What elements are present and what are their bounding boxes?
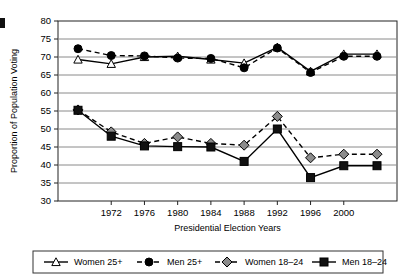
page-edge-mark xyxy=(0,18,5,28)
data-point-marker xyxy=(340,162,348,170)
data-point-marker xyxy=(207,54,215,62)
data-point-marker xyxy=(373,162,381,170)
xtick-label: 1996 xyxy=(300,207,321,218)
ytick-label: 30 xyxy=(40,195,51,206)
x-axis-title: Presidential Election Years xyxy=(174,223,281,233)
data-point-marker xyxy=(340,52,348,60)
data-point-marker xyxy=(140,52,148,60)
legend-marker-sample xyxy=(320,258,328,266)
xtick-label: 1980 xyxy=(167,207,188,218)
data-point-marker xyxy=(240,64,248,72)
y-axis-title: Proportion of Population Voting xyxy=(9,49,19,173)
legend-label: Women 25+ xyxy=(74,257,123,267)
data-point-marker xyxy=(307,68,315,76)
ytick-label: 50 xyxy=(40,123,51,134)
ytick-label: 80 xyxy=(40,15,51,26)
chart-figure: 3035404550556065707580197219761980198419… xyxy=(0,0,416,280)
xtick-label: 1984 xyxy=(200,207,221,218)
ytick-label: 45 xyxy=(40,141,51,152)
xtick-label: 1992 xyxy=(267,207,288,218)
legend-label: Men 18–24 xyxy=(342,257,387,267)
data-point-marker xyxy=(140,142,148,150)
data-point-marker xyxy=(74,45,82,53)
ytick-label: 75 xyxy=(40,33,51,44)
ytick-label: 65 xyxy=(40,69,51,80)
legend-label: Women 18–24 xyxy=(245,257,303,267)
xtick-label: 1976 xyxy=(134,207,155,218)
data-point-marker xyxy=(174,143,182,151)
xtick-label: 2000 xyxy=(333,207,354,218)
data-point-marker xyxy=(307,174,315,182)
data-point-marker xyxy=(240,157,248,165)
legend-label: Men 25+ xyxy=(167,257,202,267)
ytick-label: 55 xyxy=(40,105,51,116)
data-point-marker xyxy=(373,52,381,60)
ytick-label: 40 xyxy=(40,159,51,170)
data-point-marker xyxy=(174,54,182,62)
data-point-marker xyxy=(273,125,281,133)
voting-trend-line-chart: 3035404550556065707580197219761980198419… xyxy=(0,0,416,280)
data-point-marker xyxy=(107,52,115,60)
legend-marker-sample xyxy=(145,258,153,266)
data-point-marker xyxy=(107,132,115,140)
xtick-label: 1972 xyxy=(101,207,122,218)
ytick-label: 60 xyxy=(40,87,51,98)
data-point-marker xyxy=(273,44,281,52)
ytick-label: 70 xyxy=(40,51,51,62)
xtick-label: 1988 xyxy=(234,207,255,218)
data-point-marker xyxy=(74,106,82,114)
ytick-label: 35 xyxy=(40,177,51,188)
data-point-marker xyxy=(207,143,215,151)
